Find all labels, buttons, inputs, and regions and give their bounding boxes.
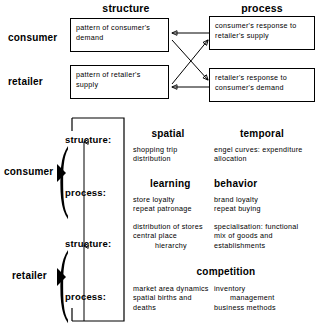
top-arrows	[166, 14, 214, 106]
diagram-canvas: structure process consumer retailer patt…	[0, 0, 319, 332]
text-retailer-process-right: inventory management business methods	[214, 284, 276, 312]
text-line: distribution of stores	[133, 222, 203, 231]
box-line: demand	[76, 33, 163, 43]
text-retailer-structure-left: distribution of stores central place hie…	[133, 222, 203, 250]
text-consumer-process-right: brand loyalty repeat buying	[214, 195, 261, 214]
text-line: central place	[133, 231, 203, 240]
text-consumer-structure-right: engel curves: expenditure allocation	[214, 145, 303, 164]
box-retailer-structure: pattern of retailer's supply	[70, 65, 169, 99]
heading-competition: competition	[133, 266, 319, 277]
retailer-structure-sublabel: structure:	[65, 238, 111, 249]
text-retailer-structure-right: specialisation: functional mix of goods …	[214, 222, 298, 250]
box-line: pattern of retailer's	[76, 70, 163, 80]
text-line: store loyalty	[133, 195, 192, 204]
column-header-process: process	[207, 2, 317, 14]
box-consumer-process: consumer's response to retailer's supply	[209, 16, 315, 50]
text-line: specialisation: functional	[214, 222, 298, 231]
box-retailer-process: retailer's response to consumer's demand	[209, 68, 315, 102]
text-line: distribution	[133, 154, 177, 163]
row-label-retailer-lower: retailer	[12, 270, 47, 281]
text-line: spatial births and	[133, 293, 209, 302]
box-line: consumer's response to	[215, 21, 309, 31]
row-label-consumer-lower: consumer	[4, 166, 53, 177]
text-line: shopping trip	[133, 145, 177, 154]
text-line: establishments	[214, 241, 298, 250]
box-line: consumer's demand	[215, 83, 309, 93]
text-line: inventory	[214, 284, 276, 293]
row-label-retailer-top: retailer	[8, 76, 43, 87]
consumer-process-sublabel: process:	[65, 187, 106, 198]
heading-spatial: spatial	[134, 128, 202, 139]
text-retailer-process-left: market area dynamics spatial births and …	[133, 284, 209, 312]
text-line: management	[214, 293, 276, 302]
text-consumer-process-left: store loyalty repeat patronage	[133, 195, 192, 214]
heading-behavior: behavior	[214, 178, 257, 189]
box-line: supply	[76, 80, 163, 90]
text-line: repeat patronage	[133, 204, 192, 213]
row-label-consumer-top: consumer	[8, 32, 57, 43]
retailer-brace: (	[59, 240, 69, 320]
box-line: retailer's response to	[215, 73, 309, 83]
text-line: deaths	[133, 303, 209, 312]
consumer-structure-sublabel: structure:	[65, 134, 111, 145]
text-line: brand loyalty	[214, 195, 261, 204]
text-line: engel curves: expenditure	[214, 145, 303, 154]
text-line: business methods	[214, 303, 276, 312]
text-line: mix of goods and	[214, 231, 298, 240]
text-line: allocation	[214, 154, 303, 163]
box-line: retailer's supply	[215, 31, 309, 41]
retailer-process-sublabel: process:	[65, 291, 106, 302]
box-consumer-structure: pattern of consumer's demand	[70, 18, 169, 52]
heading-temporal: temporal	[222, 128, 302, 139]
heading-learning: learning	[150, 178, 191, 189]
text-line: repeat buying	[214, 204, 261, 213]
column-header-structure: structure	[70, 2, 182, 14]
text-consumer-structure-left: shopping trip distribution	[133, 145, 177, 164]
consumer-brace: (	[59, 136, 69, 216]
text-line: market area dynamics	[133, 284, 209, 293]
text-line: hierarchy	[133, 241, 203, 250]
box-line: pattern of consumer's	[76, 23, 163, 33]
